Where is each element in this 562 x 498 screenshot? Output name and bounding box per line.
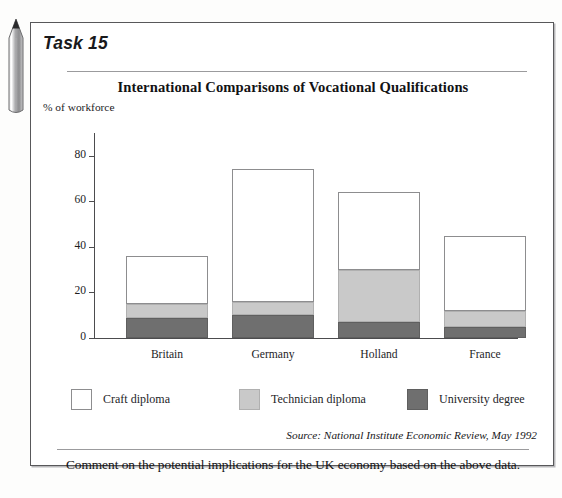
legend-swatch-tech: [239, 389, 260, 410]
bar-france: [444, 236, 526, 339]
legend-swatch-uni: [407, 389, 428, 410]
x-label-germany: Germany: [232, 348, 314, 361]
bar-segment-tech: [338, 270, 420, 322]
bar-segment-uni: [444, 327, 526, 338]
legend-item-uni: University degree: [407, 389, 525, 410]
bar-britain: [126, 256, 208, 338]
divider-bottom: [57, 449, 529, 450]
legend-label: University degree: [439, 392, 525, 407]
legend-label: Technician diploma: [271, 392, 366, 407]
chart-source: Source: National Institute Economic Revi…: [31, 429, 537, 441]
y-tick-mark: [89, 156, 94, 157]
bar-segment-tech: [232, 302, 314, 316]
y-tick-label: 0: [58, 330, 86, 343]
bar-segment-craft: [338, 192, 420, 269]
legend-label: Craft diploma: [103, 392, 170, 407]
y-tick-mark: [89, 247, 94, 248]
x-axis-line: [94, 338, 518, 339]
y-tick-label: 20: [58, 284, 86, 297]
y-tick-mark: [89, 201, 94, 202]
y-axis-title: % of workforce: [43, 101, 114, 113]
x-label-france: France: [444, 348, 526, 361]
task-box: Task 15 International Comparisons of Voc…: [30, 22, 554, 466]
legend-swatch-craft: [71, 389, 92, 410]
y-tick-label: 40: [58, 239, 86, 252]
pencil-icon: [6, 18, 26, 116]
page-root: Task 15 International Comparisons of Voc…: [0, 0, 562, 498]
task-prompt: Comment on the potential implications fo…: [39, 457, 547, 473]
x-label-britain: Britain: [126, 348, 208, 361]
y-tick-label: 60: [58, 193, 86, 206]
y-axis-line: [94, 133, 95, 339]
bar-segment-tech: [444, 311, 526, 327]
bar-germany: [232, 169, 314, 338]
bar-segment-tech: [126, 304, 208, 318]
bar-holland: [338, 192, 420, 338]
bar-segment-uni: [232, 315, 314, 338]
chart-legend: Craft diplomaTechnician diplomaUniversit…: [71, 389, 519, 425]
bar-segment-craft: [444, 236, 526, 311]
bar-segment-craft: [232, 169, 314, 301]
bar-segment-uni: [338, 322, 420, 338]
bar-segment-craft: [126, 256, 208, 304]
divider-top: [67, 71, 527, 72]
chart-title: International Comparisons of Vocational …: [31, 79, 555, 96]
legend-item-tech: Technician diploma: [239, 389, 366, 410]
task-label: Task 15: [43, 33, 108, 54]
y-tick-label: 80: [58, 148, 86, 161]
y-tick-mark: [89, 338, 94, 339]
bar-segment-uni: [126, 318, 208, 339]
legend-item-craft: Craft diploma: [71, 389, 170, 410]
y-tick-mark: [89, 292, 94, 293]
x-label-holland: Holland: [338, 348, 420, 361]
